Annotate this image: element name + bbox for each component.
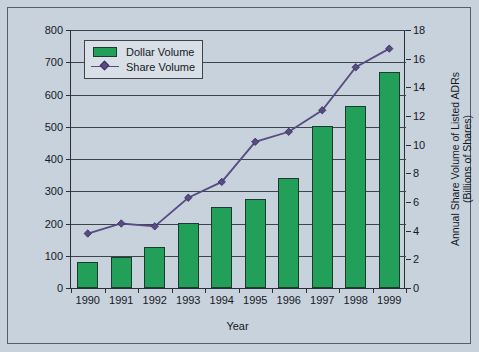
right-tick-mark [406,116,411,117]
green-box-swatch-icon [90,45,120,58]
purple-diamond-line-swatch-icon [90,60,120,73]
share-volume-marker-1991 [118,220,125,227]
right-axis-title-line2: (Billions of Shares) [461,115,473,203]
x-axis-tick-label-1990: 1990 [76,294,100,306]
legend-item-dollar-volume: Dollar Volume [90,44,195,59]
x-tick-mark [272,288,273,293]
x-tick-mark [406,288,407,293]
x-tick-mark [339,288,340,293]
right-axis-tick-label: 16 [413,53,425,65]
right-tick-mark [406,202,411,203]
left-axis-tick-label: 0 [57,282,63,294]
chart-legend: Dollar Volume Share Volume [84,40,203,79]
left-axis-tick-label: 500 [45,121,63,133]
left-axis-tick-label: 600 [45,89,63,101]
right-axis-tick-label: 10 [413,139,425,151]
right-axis-tick-label: 8 [413,167,419,179]
share-volume-marker-1999 [386,45,393,52]
right-axis-tick-label: 14 [413,81,425,93]
x-axis-tick-label-1994: 1994 [210,294,234,306]
x-axis-tick-label-1995: 1995 [243,294,267,306]
right-tick-mark [406,87,411,88]
right-tick-mark [406,231,411,232]
right-tick-mark [406,30,411,31]
x-axis-tick-label-1992: 1992 [143,294,167,306]
x-axis-tick-label-1991: 1991 [109,294,133,306]
right-axis-tick-label: 12 [413,110,425,122]
right-axis-tick-label: 4 [413,225,419,237]
right-axis-title: Annual Share Volume of Listed ADRs (Bill… [449,30,473,288]
left-axis-tick-label: 300 [45,185,63,197]
x-axis-tick-label-1999: 1999 [377,294,401,306]
right-axis-tick-label: 2 [413,253,419,265]
legend-label-share-volume: Share Volume [126,61,195,73]
right-tick-mark [406,145,411,146]
x-tick-mark [239,288,240,293]
right-tick-mark [406,259,411,260]
x-tick-mark [71,288,72,293]
left-axis-tick-label: 200 [45,218,63,230]
legend-item-share-volume: Share Volume [90,59,195,74]
chart-figure: Annual Dollar Volume of Listed ADRs (US$… [0,0,479,352]
x-tick-mark [205,288,206,293]
left-axis-tick-label: 800 [45,24,63,36]
right-axis-tick-label: 0 [413,282,419,294]
right-axis-title-line1: Annual Share Volume of Listed ADRs [449,72,461,246]
right-axis-tick-label: 6 [413,196,419,208]
x-tick-mark [105,288,106,293]
x-tick-mark [306,288,307,293]
left-axis-tick-label: 100 [45,250,63,262]
x-axis-tick-label-1996: 1996 [277,294,301,306]
right-axis-tick-label: 18 [413,24,425,36]
x-axis-tick-label-1997: 1997 [310,294,334,306]
x-axis-title: Year [70,320,405,332]
right-tick-mark [406,173,411,174]
x-axis-tick-label-1993: 1993 [176,294,200,306]
share-volume-marker-1990 [84,230,91,237]
x-tick-mark [138,288,139,293]
x-tick-mark [373,288,374,293]
left-axis-tick-label: 700 [45,56,63,68]
x-tick-mark [172,288,173,293]
left-axis-tick-label: 400 [45,153,63,165]
x-axis-tick-label-1998: 1998 [344,294,368,306]
legend-label-dollar-volume: Dollar Volume [126,46,194,58]
right-tick-mark [406,59,411,60]
